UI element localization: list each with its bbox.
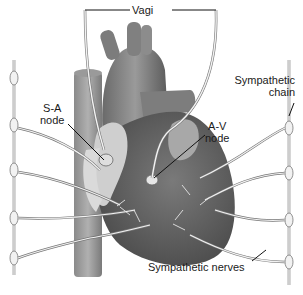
label-sympathetic-nerves: Sympathetic nerves xyxy=(148,261,245,273)
label-av-node-line2: node xyxy=(205,132,229,144)
label-sa-node-line1: S-A xyxy=(40,102,64,114)
left-sympathetic-chain xyxy=(10,60,18,275)
sa-node xyxy=(99,154,113,166)
label-sympathetic-chain: Sympathetic chain xyxy=(234,74,295,98)
label-sympathetic-chain-line1: Sympathetic xyxy=(234,74,295,86)
label-sa-node-line2: node xyxy=(40,114,64,126)
label-sympathetic-chain-line2: chain xyxy=(234,86,295,98)
label-av-node-line1: A-V xyxy=(205,120,229,132)
label-av-node: A-V node xyxy=(205,120,229,144)
label-vagi: Vagi xyxy=(132,4,153,16)
label-sa-node: S-A node xyxy=(40,102,64,126)
diagram-canvas xyxy=(0,0,303,295)
